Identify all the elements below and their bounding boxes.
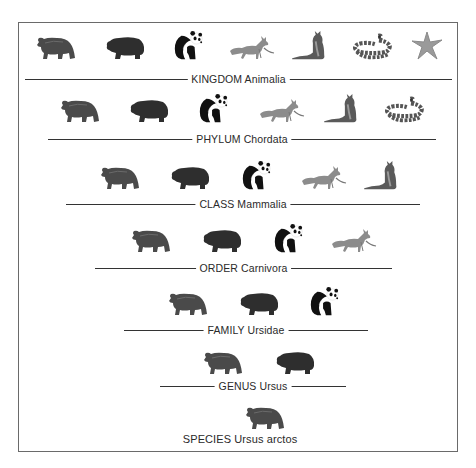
red-fox-icon: [228, 34, 276, 62]
squirrel-icon: [290, 30, 332, 62]
brown-bear-icon: [33, 34, 77, 62]
rank-label-class: CLASS Mammalia: [195, 198, 290, 210]
brown-bear-icon: [165, 290, 209, 318]
black-bear-icon: [200, 227, 244, 255]
giant-panda-icon: [197, 93, 229, 125]
giant-panda-icon: [272, 223, 304, 255]
squirrel-icon: [322, 93, 364, 125]
red-fox-icon: [300, 164, 348, 192]
squirrel-icon: [362, 160, 404, 192]
brown-bear-icon: [97, 164, 141, 192]
snake-icon: [382, 95, 424, 125]
red-fox-icon: [330, 227, 378, 255]
giant-panda-icon: [308, 286, 340, 318]
rank-label-species: SPECIES Ursus arctos: [179, 433, 301, 445]
brown-bear-icon: [200, 349, 244, 377]
giant-panda-icon: [240, 160, 272, 192]
black-bear-icon: [103, 34, 147, 62]
black-bear-icon: [237, 290, 281, 318]
rank-label-family: FAMILY Ursidae: [204, 324, 289, 336]
starfish-icon: [410, 30, 444, 62]
rank-label-genus: GENUS Ursus: [215, 380, 292, 392]
giant-panda-icon: [172, 30, 204, 62]
rank-label-kingdom: KINGDOM Animalia: [187, 73, 289, 85]
red-fox-icon: [258, 97, 306, 125]
black-bear-icon: [168, 164, 212, 192]
black-bear-icon: [127, 97, 171, 125]
rank-label-order: ORDER Carnivora: [196, 262, 292, 274]
snake-icon: [350, 32, 392, 62]
black-bear-icon: [273, 349, 317, 377]
brown-bear-icon: [128, 227, 172, 255]
brown-bear-icon: [57, 97, 101, 125]
rank-label-phylum: PHYLUM Chordata: [192, 133, 291, 145]
brown-bear-icon: [242, 404, 286, 432]
